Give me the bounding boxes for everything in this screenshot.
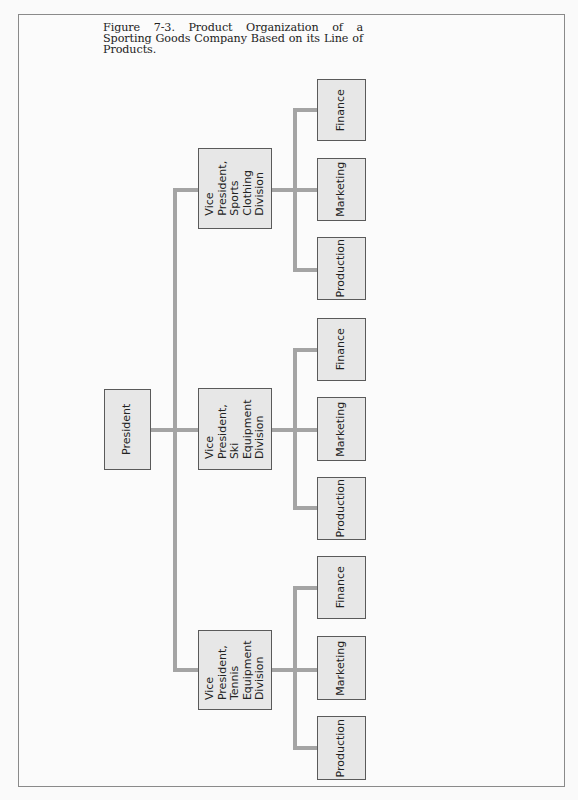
connector-sports-finance (293, 108, 318, 112)
connector-tennis-finance (293, 586, 318, 590)
ski-finance-label: Finance (335, 328, 348, 370)
vp-ski-equipment-box: Vice President, Ski Equipment Division (198, 388, 272, 470)
tennis-production-box: Production (317, 716, 366, 780)
vp-sports-clothing-label: Vice President, Sports Clothing Division (204, 161, 267, 216)
connector-ski-marketing (293, 428, 318, 432)
connector-ski-production (293, 506, 318, 510)
connector-vp-tennis (173, 668, 199, 672)
tennis-finance-box: Finance (317, 556, 366, 619)
connector-sports-marketing (293, 188, 318, 192)
ski-production-label: Production (335, 479, 348, 538)
vp-tennis-equipment-box: Vice President, Tennis Equipment Divisio… (198, 630, 272, 710)
vp-ski-equipment-label: Vice President, Ski Equipment Division (204, 399, 267, 459)
figure-caption: Figure 7-3. Product Organization of a Sp… (103, 22, 363, 55)
connector-sports-production (293, 268, 318, 272)
sports-finance-box: Finance (317, 79, 366, 141)
tennis-finance-label: Finance (335, 566, 348, 608)
tennis-marketing-label: Marketing (335, 641, 348, 696)
ski-marketing-label: Marketing (335, 402, 348, 457)
sports-marketing-label: Marketing (335, 162, 348, 217)
ski-production-box: Production (317, 477, 366, 540)
ski-finance-box: Finance (317, 318, 366, 381)
president-box: President (104, 389, 151, 470)
connector-president (151, 428, 199, 432)
connector-tennis-marketing (293, 668, 318, 672)
tennis-marketing-box: Marketing (317, 636, 366, 700)
tennis-production-label: Production (335, 719, 348, 778)
vp-tennis-equipment-label: Vice President, Tennis Equipment Divisio… (204, 640, 267, 700)
ski-marketing-box: Marketing (317, 397, 366, 461)
connector-ski-finance (293, 348, 318, 352)
president-label: President (121, 404, 134, 455)
vp-sports-clothing-box: Vice President, Sports Clothing Division (198, 148, 272, 229)
connector-vp-sports (173, 188, 199, 192)
sports-production-box: Production (317, 237, 366, 300)
sports-finance-label: Finance (335, 89, 348, 131)
sports-marketing-box: Marketing (317, 158, 366, 221)
sports-production-label: Production (335, 239, 348, 298)
connector-tennis-production (293, 746, 318, 750)
